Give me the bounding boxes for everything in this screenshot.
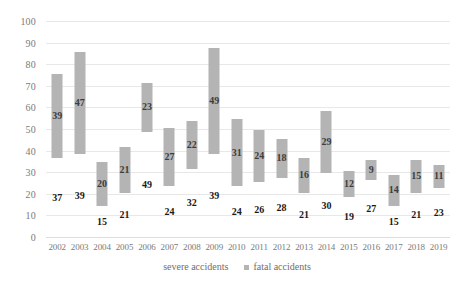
bar-group[interactable]: 1123 [427, 22, 449, 238]
data-label-severe: 39 [75, 191, 85, 201]
data-label-severe: 27 [366, 204, 376, 214]
data-label-severe: 19 [344, 212, 354, 222]
bar-group[interactable]: 1415 [383, 22, 405, 238]
data-label-severe: 15 [97, 217, 107, 227]
y-axis-tick-label: 40 [26, 147, 36, 157]
data-label-fatal: 21 [120, 165, 130, 175]
data-label-fatal: 22 [187, 140, 197, 150]
data-label-severe: 24 [164, 207, 174, 217]
bar-group[interactable]: 2426 [248, 22, 270, 238]
bar-group[interactable]: 3937 [46, 22, 68, 238]
data-label-fatal: 39 [52, 111, 62, 121]
data-label-fatal: 14 [389, 185, 399, 195]
bar-group[interactable]: 1521 [405, 22, 427, 238]
data-label-fatal: 24 [254, 151, 264, 161]
data-label-severe: 39 [209, 191, 219, 201]
legend-label-severe: severe accidents [163, 262, 228, 272]
x-axis-tick-label: 2005 [113, 240, 135, 254]
data-label-severe: 37 [52, 193, 62, 203]
y-axis: 0102030405060708090100 [0, 22, 42, 238]
x-axis-tick-label: 2010 [226, 240, 248, 254]
data-label-severe: 49 [142, 180, 152, 190]
x-axis-tick-label: 2015 [338, 240, 360, 254]
bar-series-group: 3937473920152121234927242232493931242426… [46, 22, 450, 238]
y-axis-tick-label: 100 [20, 17, 36, 27]
data-label-fatal: 27 [164, 152, 174, 162]
bar-chart: 0102030405060708090100 39374739201521212… [0, 0, 470, 282]
x-axis-tick-label: 2016 [360, 240, 382, 254]
data-label-fatal: 47 [75, 98, 85, 108]
y-axis-tick-label: 20 [26, 190, 36, 200]
data-label-severe: 21 [120, 210, 130, 220]
x-axis: 2002200320042005200620072008200920102011… [46, 240, 450, 254]
bar-group[interactable]: 4939 [203, 22, 225, 238]
bar-group[interactable]: 3124 [226, 22, 248, 238]
data-label-fatal: 20 [97, 179, 107, 189]
bar-group[interactable]: 2015 [91, 22, 113, 238]
x-axis-tick-label: 2011 [248, 240, 270, 254]
data-label-severe: 23 [434, 208, 444, 218]
data-label-severe: 32 [187, 198, 197, 208]
data-label-fatal: 49 [209, 96, 219, 106]
bar-group[interactable]: 1828 [270, 22, 292, 238]
x-axis-tick-label: 2014 [315, 240, 337, 254]
bar-group[interactable]: 4739 [68, 22, 90, 238]
y-axis-tick-label: 10 [26, 211, 36, 221]
data-label-severe: 30 [321, 201, 331, 211]
data-label-severe: 21 [299, 210, 309, 220]
x-axis-tick-label: 2004 [91, 240, 113, 254]
bar-group[interactable]: 2232 [181, 22, 203, 238]
data-label-fatal: 31 [232, 148, 242, 158]
bar-group[interactable]: 1621 [293, 22, 315, 238]
data-label-fatal: 18 [277, 153, 287, 163]
data-label-fatal: 16 [299, 170, 309, 180]
legend-item-fatal-accidents: fatal accidents [244, 262, 310, 272]
x-axis-tick-label: 2013 [293, 240, 315, 254]
bar-group[interactable]: 927 [360, 22, 382, 238]
bar-group[interactable]: 2724 [158, 22, 180, 238]
bar-group[interactable]: 2349 [136, 22, 158, 238]
bar-group[interactable]: 2930 [315, 22, 337, 238]
legend-label-fatal: fatal accidents [253, 262, 310, 272]
x-axis-tick-label: 2008 [181, 240, 203, 254]
data-label-severe: 24 [232, 207, 242, 217]
x-axis-tick-label: 2012 [270, 240, 292, 254]
y-axis-tick-label: 50 [26, 125, 36, 135]
chart-legend: severe accidents fatal accidents [0, 262, 470, 272]
x-axis-tick-label: 2017 [383, 240, 405, 254]
data-label-fatal: 15 [411, 171, 421, 181]
plot-area: 3937473920152121234927242232493931242426… [46, 22, 450, 238]
y-axis-tick-label: 70 [26, 82, 36, 92]
data-label-fatal: 23 [142, 102, 152, 112]
y-axis-tick-label: 0 [31, 233, 36, 243]
data-label-fatal: 9 [369, 165, 374, 175]
data-label-fatal: 12 [344, 179, 354, 189]
data-label-fatal: 11 [434, 171, 443, 181]
y-axis-tick-label: 30 [26, 168, 36, 178]
data-label-severe: 26 [254, 205, 264, 215]
y-axis-tick-label: 80 [26, 60, 36, 70]
bar-group[interactable]: 2121 [113, 22, 135, 238]
x-axis-tick-label: 2002 [46, 240, 68, 254]
y-axis-tick-label: 60 [26, 103, 36, 113]
x-axis-tick-label: 2003 [68, 240, 90, 254]
x-axis-tick-label: 2007 [158, 240, 180, 254]
y-axis-tick-label: 90 [26, 39, 36, 49]
data-label-severe: 15 [389, 217, 399, 227]
data-label-severe: 21 [411, 210, 421, 220]
legend-swatch-fatal-icon [244, 265, 249, 270]
data-label-fatal: 29 [321, 137, 331, 147]
x-axis-tick-label: 2006 [136, 240, 158, 254]
bar-group[interactable]: 1219 [338, 22, 360, 238]
data-label-severe: 28 [277, 203, 287, 213]
x-axis-tick-label: 2018 [405, 240, 427, 254]
x-axis-tick-label: 2009 [203, 240, 225, 254]
legend-item-severe-accidents: severe accidents [159, 262, 228, 272]
x-axis-tick-label: 2019 [427, 240, 449, 254]
